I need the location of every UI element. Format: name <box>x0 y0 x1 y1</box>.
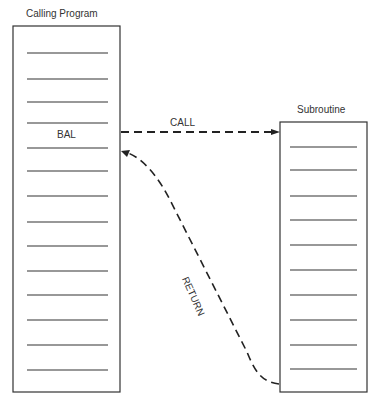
call-arrow <box>121 129 280 135</box>
calling-program-box <box>13 26 120 392</box>
subroutine-box <box>280 122 367 392</box>
bal-instruction-label: BAL <box>57 129 76 140</box>
call-label: CALL <box>170 117 195 128</box>
return-arrow <box>121 150 279 384</box>
subroutine-title: Subroutine <box>297 104 345 115</box>
calling-program-title: Calling Program <box>26 8 98 19</box>
diagram-canvas <box>0 0 378 405</box>
